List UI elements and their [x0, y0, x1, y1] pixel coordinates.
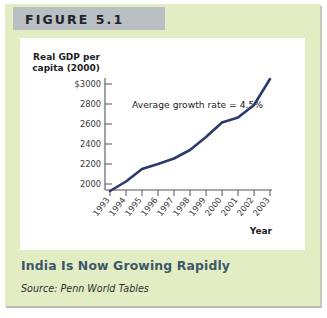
chart-card: Real GDP per capita (2000) $3000 2800 26…: [20, 38, 305, 250]
y-tick-label-2800: 2800: [80, 99, 101, 109]
figure-number-band: FIGURE 5.1: [13, 7, 165, 30]
figure-root: FIGURE 5.1 Real GDP per capita (2000) $3…: [0, 0, 327, 318]
line-chart: Real GDP per capita (2000) $3000 2800 26…: [20, 38, 305, 250]
panel-right-shadow: [320, 6, 322, 307]
x-tick-label-1995: 1995: [123, 195, 144, 218]
x-tick-label-2001: 2001: [219, 195, 240, 218]
x-axis-title: Year: [249, 226, 273, 236]
gdp-series-line: [110, 79, 270, 191]
y-tick-label-2000: 2000: [80, 179, 101, 189]
y-tick-label-2400: 2400: [80, 139, 101, 149]
x-tick-label-1993: 1993: [91, 195, 112, 218]
x-tick-label-2003: 2003: [251, 195, 272, 218]
x-tick-label-1998: 1998: [171, 195, 192, 218]
y-axis-ticks: [105, 84, 112, 184]
x-tick-label-1997: 1997: [155, 195, 176, 218]
panel-bottom-shadow: [6, 306, 322, 308]
figure-number-label: FIGURE 5.1: [25, 12, 124, 27]
x-axis-ticks: [110, 190, 270, 196]
x-tick-label-1996: 1996: [139, 195, 160, 218]
x-tick-label-1994: 1994: [107, 195, 128, 218]
y-tick-label-2600: 2600: [80, 119, 101, 129]
growth-rate-annotation: Average growth rate = 4.5%: [132, 99, 263, 110]
y-axis-title-line1: Real GDP per: [33, 52, 100, 62]
y-tick-label-2200: 2200: [80, 159, 101, 169]
y-axis-title-line2: capita (2000): [32, 63, 100, 73]
x-tick-label-2000: 2000: [203, 195, 224, 218]
figure-caption: India Is Now Growing Rapidly: [21, 258, 230, 273]
figure-source: Source: Penn World Tables: [21, 283, 149, 294]
x-tick-label-2002: 2002: [235, 195, 256, 218]
x-tick-label-1999: 1999: [187, 195, 208, 218]
y-tick-label-3000: $3000: [75, 79, 101, 89]
